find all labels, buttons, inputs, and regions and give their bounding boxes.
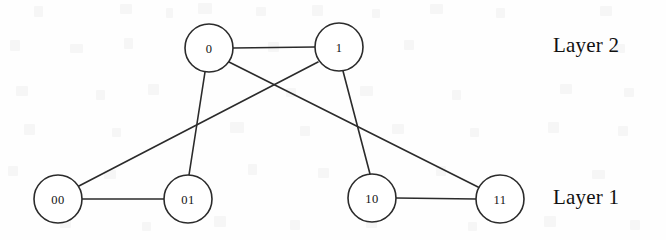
node-n0[interactable]: 0 [185, 24, 233, 72]
edge-n0-n01 [189, 72, 205, 175]
nodes-group: 0 1 00 01 10 11 [34, 23, 524, 223]
edge-n10-n11 [396, 198, 476, 199]
node-n00[interactable]: 00 [34, 175, 82, 223]
node-n1-label: 1 [336, 41, 343, 55]
edge-n0-n11 [229, 62, 480, 188]
node-n01-label: 01 [181, 193, 194, 207]
node-n11[interactable]: 11 [476, 175, 524, 223]
node-n10-label: 10 [365, 192, 378, 206]
node-n0-label: 0 [206, 42, 213, 56]
node-n11-label: 11 [494, 193, 507, 207]
edge-n1-n00 [77, 62, 318, 187]
edges-group [77, 47, 480, 199]
edge-n1-n10 [343, 71, 370, 174]
node-n1[interactable]: 1 [315, 23, 363, 71]
figure-root: 0 1 00 01 10 11 Layer [0, 0, 666, 240]
node-n00-label: 00 [51, 193, 64, 207]
node-n01[interactable]: 01 [164, 175, 212, 223]
node-n10[interactable]: 10 [348, 174, 396, 222]
layer-1-caption: Layer 1 [553, 185, 619, 210]
layer-2-caption: Layer 2 [553, 33, 619, 58]
edge-n0-n1 [233, 47, 315, 48]
